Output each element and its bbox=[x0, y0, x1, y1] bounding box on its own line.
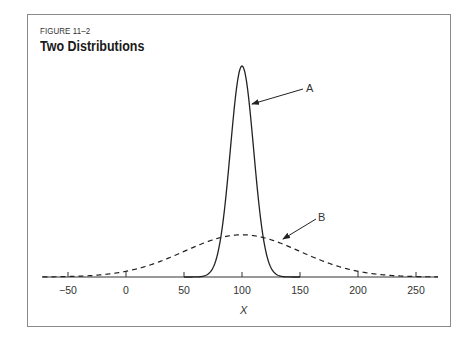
x-tick-label: 50 bbox=[178, 284, 190, 296]
x-tick-label: 0 bbox=[123, 284, 129, 296]
x-tick-label: 200 bbox=[349, 284, 367, 296]
x-tick-label: 100 bbox=[233, 284, 251, 296]
x-tick-label: 150 bbox=[291, 284, 309, 296]
x-axis-tick-labels: −50050100150200250 bbox=[59, 284, 425, 296]
annotation-b-arrow bbox=[283, 219, 316, 239]
x-tick-label: −50 bbox=[59, 284, 77, 296]
series-a-solid-curve bbox=[184, 66, 300, 277]
chart-plot: −50050100150200250 A B X bbox=[0, 0, 476, 340]
x-tick-label: 250 bbox=[407, 284, 425, 296]
annotation-b-label: B bbox=[318, 211, 325, 223]
x-axis-label: X bbox=[239, 304, 248, 316]
series-b-dashed-curve bbox=[42, 235, 438, 277]
annotation-a-label: A bbox=[306, 82, 314, 94]
annotation-a-arrow bbox=[252, 89, 303, 104]
